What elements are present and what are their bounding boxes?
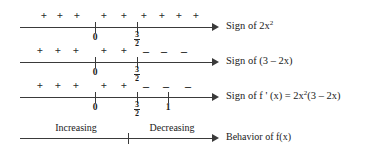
sign-row1-4: + — [101, 10, 107, 21]
sign-row3-8: – — [185, 80, 191, 92]
axis-line-4 — [20, 138, 214, 139]
sign-row3-2: + — [55, 80, 61, 91]
arrow-head-4 — [212, 134, 219, 142]
row-label-text: Sign of f ' (x) = 2x — [226, 90, 304, 101]
sign-row2-8: – — [181, 45, 187, 57]
sign-chart-figure: 0 3 2 + + + + + + + + + Sign of 2x2 0 3 … — [0, 0, 372, 148]
tick-row4-critical — [128, 133, 129, 144]
axis-line-2 — [20, 62, 214, 63]
fraction-denominator: 2 — [134, 109, 140, 118]
tick-label-row3-1: 1 — [166, 103, 171, 113]
sign-row3-1: + — [37, 80, 43, 91]
sign-row1-7: + — [159, 10, 165, 21]
row-label-sign-of-3-minus-2x: Sign of (3 – 2x) — [226, 56, 293, 67]
sign-row3-3: + — [73, 80, 79, 91]
row-label-sign-of-2x-squared: Sign of 2x2 — [226, 21, 273, 32]
row-label-text: Sign of (3 – 2x) — [226, 55, 293, 66]
fraction-numerator: 3 — [134, 66, 140, 74]
sign-row2-1: + — [37, 45, 43, 56]
row-label-text: Sign of 2x — [226, 20, 270, 31]
tick-label-row3-0: 0 — [93, 103, 98, 113]
sign-row3-6: – — [143, 80, 149, 92]
tick-label-row1-three-halves: 3 2 — [134, 31, 140, 49]
row-label-tail: (3 – 2x) — [307, 90, 340, 101]
sign-row1-3: + — [74, 10, 80, 21]
axis-line-3 — [20, 97, 214, 98]
arrow-head-2 — [212, 58, 219, 66]
sign-row1-8: + — [176, 10, 182, 21]
tick-label-row2-three-halves: 3 2 — [134, 66, 140, 84]
interval-label-increasing: Increasing — [55, 123, 97, 133]
row-label-text: Behavior of f(x) — [226, 131, 291, 142]
fraction-denominator: 2 — [134, 74, 140, 83]
sign-row2-3: + — [73, 45, 79, 56]
interval-label-decreasing: Decreasing — [150, 123, 195, 133]
row-label-exponent: 2 — [270, 19, 274, 27]
sign-row1-5: + — [121, 10, 127, 21]
sign-row3-5: + — [121, 80, 127, 91]
sign-row3-7: – — [163, 80, 169, 92]
sign-row2-7: – — [161, 45, 167, 57]
axis-line-1 — [20, 27, 214, 28]
fraction-denominator: 2 — [134, 39, 140, 48]
row-label-sign-of-f-prime: Sign of f ' (x) = 2x2(3 – 2x) — [226, 91, 341, 102]
sign-row1-9: + — [193, 10, 199, 21]
sign-row1-1: + — [41, 10, 47, 21]
tick-label-row1-0: 0 — [93, 33, 98, 43]
tick-label-row2-0: 0 — [93, 68, 98, 78]
tick-label-row3-three-halves: 3 2 — [134, 101, 140, 119]
fraction-numerator: 3 — [134, 101, 140, 109]
sign-row2-5: + — [121, 45, 127, 56]
sign-row3-4: + — [101, 80, 107, 91]
sign-row1-6: + — [141, 10, 147, 21]
sign-row2-2: + — [55, 45, 61, 56]
row-label-behavior-of-f: Behavior of f(x) — [226, 132, 291, 142]
sign-row2-4: + — [101, 45, 107, 56]
arrow-head-3 — [212, 93, 219, 101]
sign-row1-2: + — [57, 10, 63, 21]
arrow-head-1 — [212, 23, 219, 31]
sign-row2-6: – — [143, 45, 149, 57]
fraction-numerator: 3 — [134, 31, 140, 39]
